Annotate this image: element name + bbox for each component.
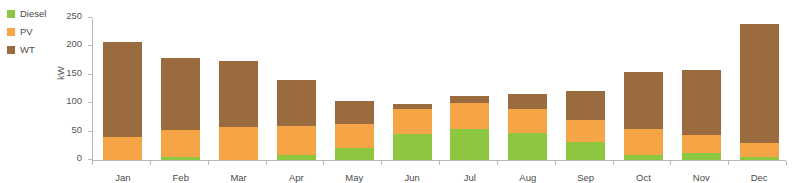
bar-segment-diesel	[335, 148, 374, 160]
y-axis-tick: 150	[88, 74, 92, 75]
x-axis-tick	[728, 161, 729, 165]
chart-legend: Diesel PV WT	[7, 6, 69, 60]
bar-segment-wt	[335, 101, 374, 124]
bar-segment-pv	[624, 129, 663, 155]
bar-may[interactable]: May	[335, 101, 374, 160]
bar-jul[interactable]: Jul	[450, 96, 489, 160]
bar-dec[interactable]: Dec	[740, 24, 779, 160]
bar-segment-wt	[161, 58, 200, 130]
bar-segment-wt	[682, 70, 721, 135]
x-axis-tick	[670, 161, 671, 165]
bar-segment-diesel	[624, 155, 663, 160]
bar-segment-pv	[277, 126, 316, 156]
x-axis-tick	[381, 161, 382, 165]
y-axis-tick-label: 50	[71, 124, 82, 135]
x-axis-tick	[439, 161, 440, 165]
bar-segment-wt	[566, 91, 605, 121]
x-axis-tick	[150, 161, 151, 165]
bar-sep[interactable]: Sep	[566, 91, 605, 160]
bar-segment-pv	[103, 137, 142, 160]
x-axis-label-aug: Aug	[500, 172, 555, 183]
stacked-bar-chart: Diesel PV WT kW 050100150200250 JanFebMa…	[0, 0, 792, 183]
y-axis-tick-label: 100	[66, 95, 82, 106]
bar-segment-pv	[219, 127, 258, 160]
x-axis-label-may: May	[327, 172, 382, 183]
bar-segment-pv	[740, 143, 779, 157]
legend-swatch-pv	[7, 28, 15, 36]
bar-segment-diesel	[682, 153, 721, 160]
x-axis-label-feb: Feb	[153, 172, 208, 183]
bar-nov[interactable]: Nov	[682, 70, 721, 160]
bar-oct[interactable]: Oct	[624, 72, 663, 160]
legend-item-pv: PV	[7, 24, 69, 39]
x-axis-tick	[786, 161, 787, 165]
x-axis-tick	[555, 161, 556, 165]
x-axis-label-jan: Jan	[95, 172, 150, 183]
x-axis-label-nov: Nov	[674, 172, 729, 183]
bar-jan[interactable]: Jan	[103, 42, 142, 160]
y-axis-tick: 250	[88, 17, 92, 18]
y-axis-tick: 50	[88, 131, 92, 132]
y-axis-tick: 100	[88, 102, 92, 103]
x-axis-label-sep: Sep	[558, 172, 613, 183]
bar-segment-diesel	[508, 133, 547, 160]
x-axis-tick	[323, 161, 324, 165]
bar-segment-wt	[508, 94, 547, 109]
legend-swatch-diesel	[7, 10, 15, 18]
x-axis-tick	[497, 161, 498, 165]
x-axis-label-mar: Mar	[211, 172, 266, 183]
bar-segment-wt	[219, 61, 258, 127]
x-axis-label-apr: Apr	[269, 172, 324, 183]
bar-segment-diesel	[566, 142, 605, 160]
y-axis-tick: 200	[88, 45, 92, 46]
legend-label-diesel: Diesel	[20, 9, 46, 19]
y-axis-tick-label: 150	[66, 67, 82, 78]
bar-segment-wt	[393, 104, 432, 109]
bar-mar[interactable]: Mar	[219, 61, 258, 160]
x-axis-label-dec: Dec	[732, 172, 787, 183]
y-axis-tick-label: 200	[66, 38, 82, 49]
bar-segment-diesel	[450, 129, 489, 160]
bar-segment-pv	[682, 135, 721, 153]
x-axis-label-jun: Jun	[385, 172, 440, 183]
bar-feb[interactable]: Feb	[161, 58, 200, 160]
x-axis-label-oct: Oct	[616, 172, 671, 183]
y-axis-line	[92, 18, 93, 161]
plot-area: 050100150200250 JanFebMarAprMayJunJulAug…	[92, 18, 786, 161]
legend-item-wt: WT	[7, 42, 69, 57]
y-axis-title: kW	[55, 66, 66, 80]
bar-segment-diesel	[161, 157, 200, 160]
x-axis-tick	[613, 161, 614, 165]
bar-segment-pv	[508, 109, 547, 133]
y-axis-tick-label: 250	[66, 10, 82, 21]
bar-jun[interactable]: Jun	[393, 104, 432, 160]
bar-apr[interactable]: Apr	[277, 80, 316, 160]
legend-label-wt: WT	[20, 45, 35, 55]
x-axis-tick	[92, 161, 93, 165]
bar-segment-wt	[740, 24, 779, 143]
bar-aug[interactable]: Aug	[508, 94, 547, 160]
x-axis-tick	[208, 161, 209, 165]
x-axis-label-jul: Jul	[442, 172, 497, 183]
bar-segment-diesel	[393, 134, 432, 160]
bar-segment-wt	[624, 72, 663, 129]
bar-segment-wt	[103, 42, 142, 137]
bar-segment-pv	[566, 120, 605, 142]
bar-segment-wt	[277, 80, 316, 125]
bar-segment-pv	[393, 109, 432, 135]
bar-segment-diesel	[740, 157, 779, 160]
bar-segment-pv	[450, 103, 489, 129]
bar-segment-diesel	[277, 155, 316, 160]
y-axis-tick-label: 0	[77, 152, 82, 163]
bar-segment-wt	[450, 96, 489, 103]
y-axis-tick: 0	[88, 159, 92, 160]
legend-item-diesel: Diesel	[7, 6, 69, 21]
legend-swatch-wt	[7, 46, 15, 54]
legend-label-pv: PV	[20, 27, 33, 37]
x-axis-tick	[266, 161, 267, 165]
bar-segment-pv	[161, 130, 200, 157]
bar-segment-pv	[335, 124, 374, 148]
